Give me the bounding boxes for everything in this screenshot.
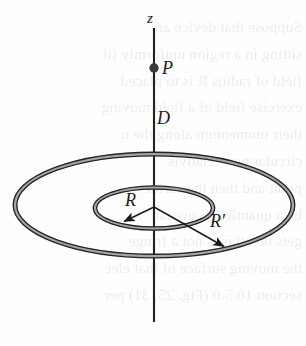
- distance-label-D: D: [157, 108, 170, 129]
- point-label-P: P: [162, 58, 173, 79]
- physics-figure-two-rings: Suppose that device are sitting in a reg…: [0, 0, 306, 346]
- axis-label-z: z: [147, 10, 153, 27]
- radius-label-R: R: [125, 190, 136, 211]
- radius-label-R-prime: R′: [210, 211, 225, 232]
- diagram-canvas: [0, 0, 306, 346]
- point-P-marker: [149, 63, 158, 72]
